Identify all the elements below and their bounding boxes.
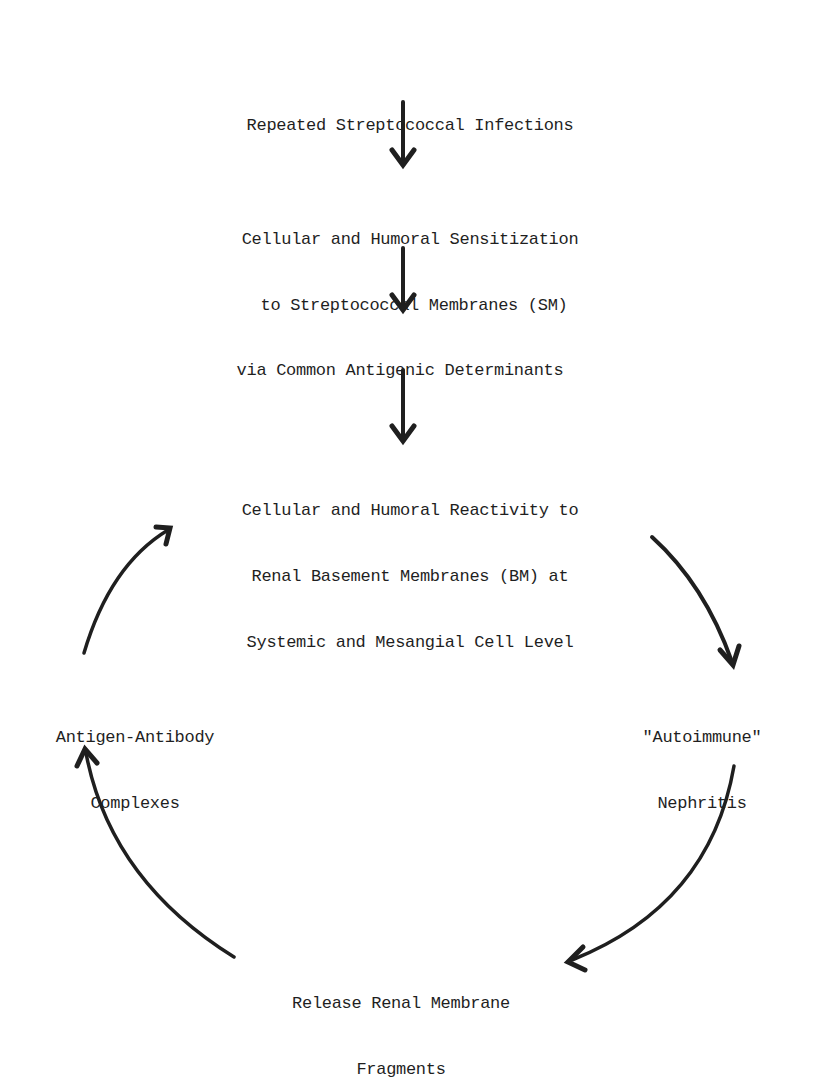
node-line: Nephritis xyxy=(612,793,792,815)
node-release-fragments: Release Renal Membrane Fragments xyxy=(236,949,566,1081)
node-line: Fragments xyxy=(236,1059,566,1081)
node-autoimmune-nephritis: "Autoimmune" Nephritis xyxy=(612,683,792,859)
node-line: "Autoimmune" xyxy=(612,727,792,749)
node-line: Antigen-Antibody xyxy=(20,727,250,749)
node-antigen-antibody: Antigen-Antibody Complexes xyxy=(20,683,250,859)
node-repeated-infections: Repeated Streptococcal Infections xyxy=(170,71,650,181)
node-line: Repeated Streptococcal Infections xyxy=(170,115,650,137)
node-line: Renal Basement Membranes (BM) at xyxy=(150,566,670,588)
node-line: via Common Antigenic Determinants xyxy=(150,360,650,382)
node-line: Complexes xyxy=(20,793,250,815)
node-common-determinants: via Common Antigenic Determinants xyxy=(150,316,650,426)
node-line: Cellular and Humoral Sensitization xyxy=(150,229,670,251)
node-reactivity: Cellular and Humoral Reactivity to Renal… xyxy=(150,456,670,698)
node-line: Release Renal Membrane xyxy=(236,993,566,1015)
node-line: to Streptococcal Membranes (SM) xyxy=(150,295,670,317)
node-line: Cellular and Humoral Reactivity to xyxy=(150,500,670,522)
node-line: Systemic and Mesangial Cell Level xyxy=(150,632,670,654)
